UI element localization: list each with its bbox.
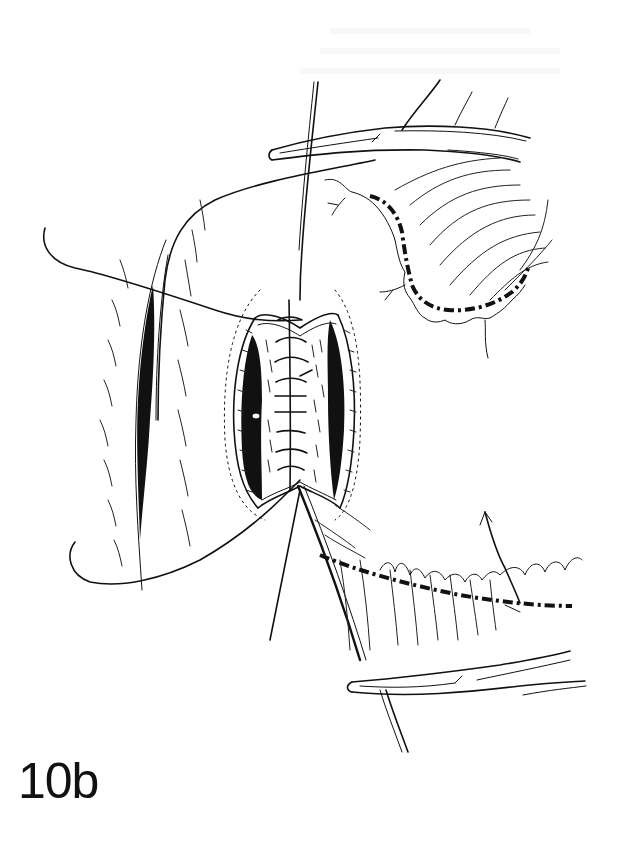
central-incision — [224, 290, 360, 520]
bleed-through-text — [300, 28, 560, 74]
suture-thread-lower-loop — [70, 480, 300, 584]
vertical-suture-lower — [270, 486, 408, 752]
lower-hemostat-clamp — [348, 651, 587, 695]
interrupted-sutures — [275, 317, 312, 470]
upper-right-tissue-flap — [325, 80, 552, 358]
left-lateral-incision — [100, 200, 205, 590]
suture-thread-upper-loop — [44, 160, 375, 420]
lower-right-tissue — [315, 505, 582, 650]
vertical-suture-upper — [299, 82, 318, 300]
surgical-illustration — [0, 0, 627, 850]
figure-label: 10b — [18, 752, 98, 810]
